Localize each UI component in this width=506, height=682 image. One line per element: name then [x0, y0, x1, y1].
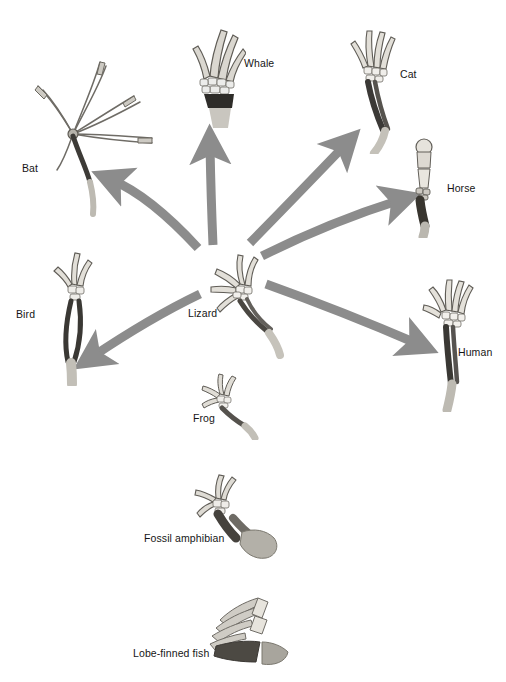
label-frog: Frog — [193, 413, 215, 424]
label-lobe-finned-fish: Lobe-finned fish — [133, 648, 209, 659]
label-cat: Cat — [400, 69, 417, 80]
label-bat: Bat — [22, 163, 38, 174]
label-whale: Whale — [244, 58, 274, 69]
label-human: Human — [458, 347, 492, 358]
figure-canvas: Bat Whale Cat Horse Human Bird Lizard Fr… — [0, 0, 506, 682]
label-lizard: Lizard — [188, 308, 217, 319]
label-horse: Horse — [447, 183, 476, 194]
label-layer: Bat Whale Cat Horse Human Bird Lizard Fr… — [0, 0, 506, 682]
label-bird: Bird — [16, 309, 35, 320]
label-fossil-amphibian: Fossil amphibian — [144, 533, 224, 544]
